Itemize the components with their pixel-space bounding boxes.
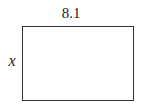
rectangle-shape — [22, 26, 134, 101]
width-label: 8.1 — [56, 4, 86, 22]
rectangle-diagram: 8.1 x — [0, 0, 142, 109]
height-label: x — [6, 52, 18, 70]
